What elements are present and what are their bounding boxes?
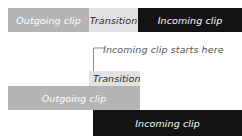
bottom-timeline-outgoing-clip-label: Outgoing clip [42,93,107,104]
top-timeline-outgoing-clip-label: Outgoing clip [16,15,81,26]
top-timeline-incoming-clip-label: Incoming clip [158,15,223,26]
transition-timeline-diagram: Outgoing clip Transition Incoming clip I… [0,0,242,140]
bottom-timeline-transition-label: Transition [93,73,140,84]
bottom-timeline-incoming-clip-block: Incoming clip [93,110,242,136]
top-timeline-transition-block: Transition [89,8,138,32]
top-timeline-incoming-clip-block: Incoming clip [138,8,242,32]
top-timeline-transition-label: Transition [90,15,138,26]
bottom-timeline-incoming-clip-label: Incoming clip [135,118,200,129]
top-timeline-outgoing-clip-block: Outgoing clip [8,8,89,32]
bottom-timeline-outgoing-clip-block: Outgoing clip [8,86,140,110]
bottom-timeline-transition-block: Transition [89,71,140,86]
annotation-label: Incoming clip starts here [103,44,224,55]
